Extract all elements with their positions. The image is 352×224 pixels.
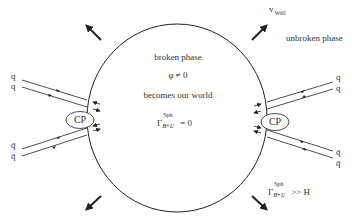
outside-rate-sub: B̸+L̸: [273, 192, 284, 198]
outside-rate-relation: >> H: [291, 187, 310, 197]
inside-rate-sup: Sph: [163, 112, 172, 118]
left-q-label-2: q: [11, 81, 16, 91]
arrow-up-left-icon: [88, 27, 101, 40]
inside-rate-sub: B̸+L̸: [162, 123, 173, 129]
wall-velocity-symbol: v: [269, 4, 274, 14]
right-q-label-1: q: [336, 72, 341, 82]
arrow-down-right-icon: [252, 196, 265, 208]
arrow-up-right-icon: [252, 27, 265, 40]
outside-rate-sup: Sph: [274, 181, 283, 187]
left-cp-label: CP: [74, 114, 86, 125]
left-q-label-1: q: [11, 71, 16, 81]
wall-velocity-label: vWall: [269, 4, 286, 14]
wall-velocity-sub: Wall: [275, 10, 286, 16]
unbroken-phase-label: unbroken phase: [286, 33, 343, 43]
inside-rate-relation: = 0: [180, 118, 192, 128]
vev-label: φ ≠ 0: [168, 70, 187, 80]
right-cp-label: CP: [269, 116, 281, 127]
arrow-down-left-icon: [88, 196, 101, 208]
right-qbar-label-1: q̄: [336, 147, 341, 157]
world-label: becomes our world: [144, 90, 213, 100]
broken-phase-label: broken phase: [154, 52, 202, 62]
left-qbar-label-2: q̄: [11, 151, 16, 161]
left-qbar-label-1: q̄: [11, 140, 16, 150]
outside-sphaleron-rate: Γ Sph B̸+L̸ >> H: [268, 185, 310, 197]
right-qbar-label-2: q̄: [336, 158, 341, 168]
inside-sphaleron-rate: Γ Sph B̸+L̸ = 0: [157, 116, 192, 128]
right-q-label-2: q: [336, 83, 341, 93]
